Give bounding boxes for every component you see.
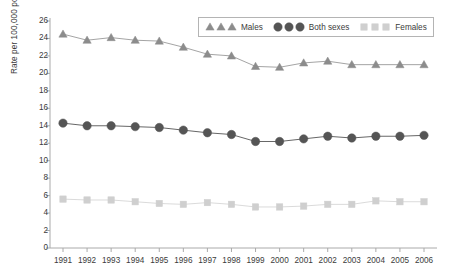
- line-chart: Rate per 100,000 population 024681012141…: [0, 0, 451, 277]
- legend-label: Females: [395, 23, 426, 32]
- y-tick-label: 12: [39, 139, 48, 147]
- y-tick-label: 6: [43, 192, 48, 200]
- data-point-circle: [227, 130, 235, 138]
- series-line-both-sexes: [63, 123, 424, 141]
- data-point-square: [383, 24, 389, 30]
- data-point-circle: [296, 23, 304, 31]
- chart-legend: MalesBoth sexesFemales: [198, 17, 434, 37]
- y-tick-label: 10: [39, 157, 48, 165]
- y-tick-label: 26: [39, 17, 48, 25]
- data-point-square: [300, 203, 306, 209]
- data-point-square: [325, 201, 331, 207]
- data-point-square: [276, 204, 282, 210]
- data-point-square: [252, 204, 258, 210]
- data-point-triangle: [206, 23, 214, 30]
- legend-label: Males: [241, 23, 263, 32]
- data-point-square: [373, 198, 379, 204]
- data-point-circle: [131, 122, 139, 130]
- data-point-square: [132, 199, 138, 205]
- data-point-circle: [274, 23, 282, 31]
- data-point-square: [60, 196, 66, 202]
- legend-label: Both sexes: [309, 23, 350, 32]
- data-point-square: [180, 201, 186, 207]
- data-point-square: [372, 24, 378, 30]
- data-point-circle: [299, 135, 307, 143]
- data-point-circle: [372, 132, 380, 140]
- y-tick-label: 8: [43, 174, 48, 182]
- data-point-square: [108, 197, 114, 203]
- data-point-circle: [285, 23, 293, 31]
- data-point-triangle: [107, 33, 115, 40]
- data-point-triangle: [324, 57, 332, 64]
- data-point-triangle: [59, 30, 67, 37]
- legend-entry-males: Males: [205, 21, 263, 33]
- data-point-square: [228, 201, 234, 207]
- data-point-square: [397, 199, 403, 205]
- data-point-circle: [251, 137, 259, 145]
- plot-area: [0, 0, 451, 277]
- data-point-square: [156, 200, 162, 206]
- data-point-circle: [420, 131, 428, 139]
- legend-marker-square-icon: [359, 21, 391, 33]
- data-point-triangle: [228, 23, 236, 30]
- data-point-circle: [203, 129, 211, 137]
- y-axis-title: Rate per 100,000 population: [10, 0, 24, 74]
- y-tick-label: 20: [39, 69, 48, 77]
- data-point-square: [349, 201, 355, 207]
- data-point-circle: [348, 134, 356, 142]
- series-line-females: [63, 199, 424, 207]
- data-point-square: [84, 197, 90, 203]
- data-point-circle: [107, 122, 115, 130]
- y-tick-label: 4: [43, 209, 48, 217]
- legend-marker-circle-icon: [273, 21, 305, 33]
- data-point-triangle: [396, 61, 404, 68]
- y-tick-label: 22: [39, 52, 48, 60]
- data-point-circle: [324, 132, 332, 140]
- y-tick-label: 0: [43, 244, 48, 252]
- y-tick-label: 14: [39, 122, 48, 130]
- data-point-circle: [396, 132, 404, 140]
- data-point-circle: [179, 126, 187, 134]
- data-point-triangle: [372, 61, 380, 68]
- data-point-triangle: [217, 23, 225, 30]
- legend-entry-both-sexes: Both sexes: [273, 21, 350, 33]
- y-tick-label: 16: [39, 104, 48, 112]
- y-tick-label: 2: [43, 227, 48, 235]
- data-point-triangle: [251, 62, 259, 69]
- data-point-circle: [83, 122, 91, 130]
- x-tick-label: 2006: [409, 256, 439, 265]
- y-axis-ticks: 02468101214161820222426: [28, 0, 48, 277]
- series-line-males: [63, 34, 424, 67]
- legend-entry-females: Females: [359, 21, 426, 33]
- legend-marker-triangle-icon: [205, 21, 237, 33]
- data-point-square: [204, 199, 210, 205]
- data-point-square: [421, 199, 427, 205]
- data-point-circle: [155, 123, 163, 131]
- data-point-circle: [59, 119, 67, 127]
- data-point-triangle: [420, 61, 428, 68]
- y-tick-label: 24: [39, 34, 48, 42]
- y-tick-label: 18: [39, 87, 48, 95]
- data-point-square: [361, 24, 367, 30]
- data-point-circle: [275, 137, 283, 145]
